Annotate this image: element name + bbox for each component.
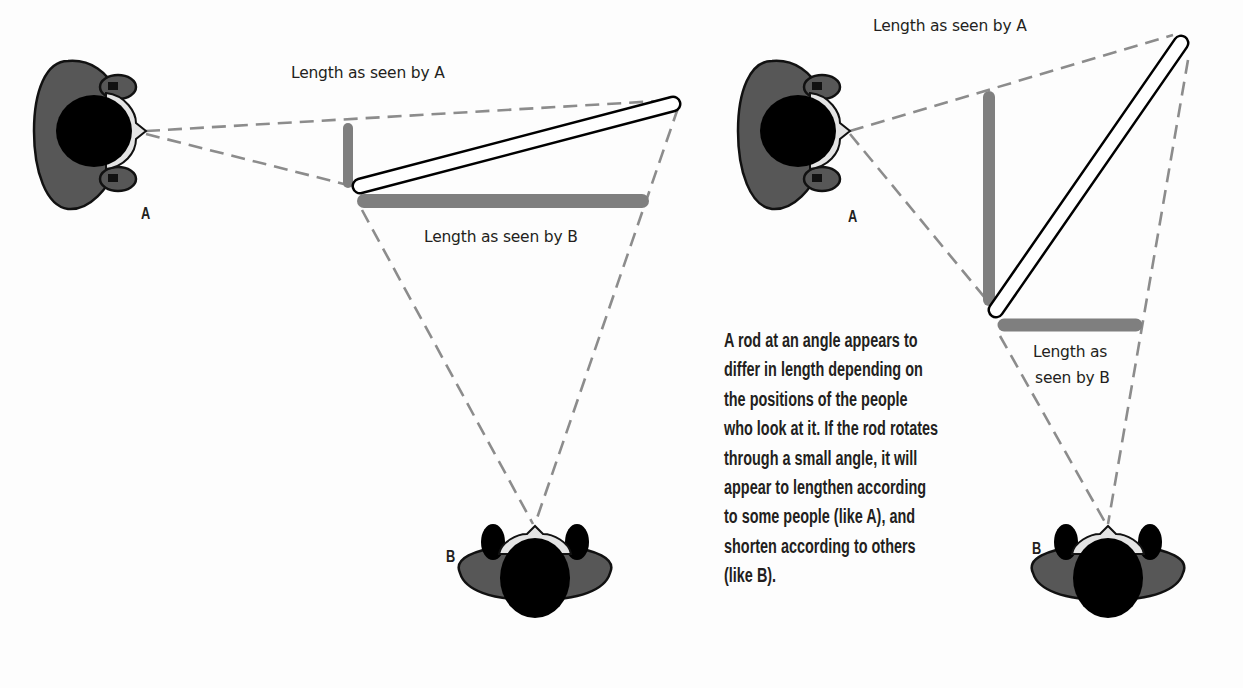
label-length-seen-by-b-line1: Length as [1033, 343, 1107, 361]
caption-line: the positions of the people [724, 385, 946, 414]
person-a-icon [34, 61, 146, 209]
caption-line: to some people (like A), and [724, 502, 946, 531]
label-length-seen-by-b-line2: seen by B [1035, 369, 1110, 387]
caption-paragraph: A rod at an angle appears to differ in l… [724, 326, 946, 591]
left-figure [34, 61, 678, 618]
label-length-seen-by-a: Length as seen by A [291, 64, 445, 82]
caption-line: shorten according to others [724, 532, 946, 561]
caption-line: differ in length depending on [724, 355, 946, 384]
label-length-seen-by-b: Length as seen by B [424, 228, 578, 246]
caption-line: (like B). [724, 561, 946, 590]
person-a-label: A [141, 205, 150, 223]
person-b-icon [459, 524, 612, 618]
person-b-label: B [446, 548, 455, 566]
person-a-label: A [848, 208, 857, 226]
caption-line: who look at it. If the rod rotates [724, 414, 946, 443]
label-length-seen-by-a: Length as seen by A [873, 17, 1027, 35]
caption-line: A rod at an angle appears to [724, 326, 946, 355]
caption-line: through a small angle, it will [724, 444, 946, 473]
person-b-icon [1032, 524, 1185, 618]
person-a-icon [738, 61, 850, 209]
person-b-label: B [1032, 540, 1041, 558]
caption-line: appear to lengthen according [724, 473, 946, 502]
